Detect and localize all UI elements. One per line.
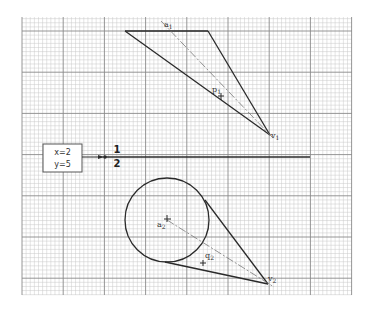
label-q2: q2 — [205, 251, 214, 261]
right-generator-line — [208, 31, 270, 135]
axis-line-1 — [161, 21, 273, 138]
left-generator-line — [125, 31, 270, 135]
center-a2-cross-icon — [164, 215, 171, 222]
label-view-2: 2 — [114, 158, 121, 169]
label-view-1: 1 — [114, 144, 121, 155]
upper-tangent-line — [205, 200, 268, 284]
label-a1: a1 — [164, 20, 173, 30]
point-q2-cross-icon — [200, 260, 206, 266]
ground-line-group: x=2 y=5 1 2 — [43, 144, 310, 172]
coord-x: x=2 — [54, 148, 71, 157]
coord-y: y=5 — [54, 160, 71, 169]
label-v1: v1 — [270, 131, 279, 141]
arrow-icon — [98, 155, 104, 159]
drawing-canvas: a1 p1 v1 x=2 y=5 1 2 a2 q2 v2 — [0, 0, 368, 315]
label-v2: v2 — [267, 274, 277, 284]
label-a2: a2 — [157, 220, 166, 230]
view-2: a2 q2 v2 — [125, 178, 277, 287]
